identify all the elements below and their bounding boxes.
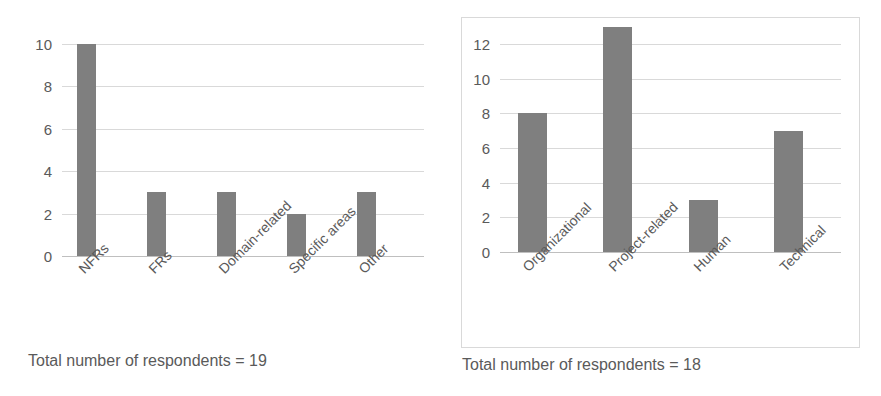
gridline — [500, 113, 841, 114]
gridline — [62, 44, 424, 45]
chart-right-plot-area: 024681012OrganizationalProject-relatedHu… — [500, 44, 841, 252]
chart-left-plot-area: 0246810NFRsFRsDomain-relatedSpecific are… — [62, 44, 424, 256]
y-axis-tick-label: 2 — [12, 206, 52, 221]
chart-left-caption: Total number of respondents = 19 — [28, 352, 267, 370]
y-axis-tick-label: 8 — [450, 106, 490, 121]
chart-left-frame: 0246810NFRsFRsDomain-relatedSpecific are… — [8, 8, 432, 348]
chart-right-frame: 024681012OrganizationalProject-relatedHu… — [461, 17, 860, 348]
gridline — [500, 79, 841, 80]
y-axis-tick-label: 0 — [12, 249, 52, 264]
chart-right: 024681012OrganizationalProject-relatedHu… — [440, 0, 881, 396]
figure-pair: 0246810NFRsFRsDomain-relatedSpecific are… — [0, 0, 881, 396]
gridline — [62, 171, 424, 172]
y-axis-tick-label: 4 — [12, 164, 52, 179]
bar-nfrs — [77, 44, 96, 256]
bar-organizational — [518, 113, 547, 252]
bar-technical — [774, 131, 803, 252]
chart-right-caption: Total number of respondents = 18 — [462, 356, 701, 374]
y-axis-tick-label: 4 — [450, 175, 490, 190]
chart-left: 0246810NFRsFRsDomain-relatedSpecific are… — [0, 0, 440, 396]
gridline — [62, 86, 424, 87]
y-axis-tick-label: 10 — [12, 37, 52, 52]
y-axis-tick-label: 10 — [450, 71, 490, 86]
y-axis-tick-label: 2 — [450, 210, 490, 225]
y-axis-tick-label: 0 — [450, 245, 490, 260]
y-axis-tick-label: 6 — [450, 141, 490, 156]
gridline — [500, 44, 841, 45]
y-axis-tick-label: 12 — [450, 37, 490, 52]
bar-project-related — [603, 27, 632, 252]
y-axis-tick-label: 8 — [12, 79, 52, 94]
gridline — [62, 129, 424, 130]
y-axis-tick-label: 6 — [12, 121, 52, 136]
